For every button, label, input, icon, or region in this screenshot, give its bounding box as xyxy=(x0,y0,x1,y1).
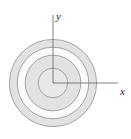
y-axis-label: y xyxy=(56,11,61,22)
concentric-circles-graphic xyxy=(0,0,131,139)
figure-container: y x xyxy=(0,0,131,139)
x-axis-label: x xyxy=(120,86,125,97)
